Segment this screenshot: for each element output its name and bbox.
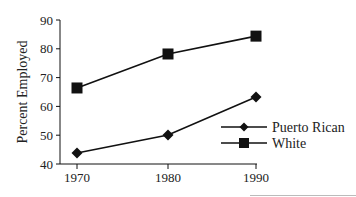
diamond-marker-icon: [240, 123, 249, 132]
series-layer: [72, 31, 262, 159]
x-tick-label: 1980: [155, 170, 181, 185]
legend-item-puerto-rican: Puerto Rican: [221, 120, 345, 135]
diamond-marker-icon: [72, 148, 83, 159]
y-tick-label: 80: [40, 41, 53, 56]
legend: Puerto Rican White: [221, 120, 345, 151]
series-line: [77, 97, 256, 153]
line-chart: 405060708090 197019801990 Percent Employ…: [0, 0, 356, 197]
legend-label: Puerto Rican: [272, 120, 345, 135]
legend-item-white: White: [221, 136, 306, 151]
x-tick-label: 1990: [243, 170, 269, 185]
series-white: [72, 31, 262, 94]
square-marker-icon: [239, 138, 249, 148]
y-tick-label: 50: [40, 128, 53, 143]
y-tick-label: 40: [40, 157, 53, 172]
square-marker-icon: [251, 31, 262, 42]
diamond-marker-icon: [251, 91, 262, 102]
diamond-marker-icon: [163, 129, 174, 140]
y-axis: 405060708090: [40, 13, 60, 172]
y-tick-label: 60: [40, 99, 53, 114]
x-axis: 197019801990: [60, 164, 269, 185]
series-puerto-rican: [72, 91, 262, 158]
square-marker-icon: [72, 82, 83, 93]
series-line: [77, 36, 256, 88]
y-axis-label: Percent Employed: [15, 40, 30, 143]
square-marker-icon: [163, 48, 174, 59]
legend-label: White: [272, 136, 306, 151]
y-tick-label: 70: [40, 70, 53, 85]
x-tick-label: 1970: [64, 170, 90, 185]
y-tick-label: 90: [40, 13, 53, 28]
